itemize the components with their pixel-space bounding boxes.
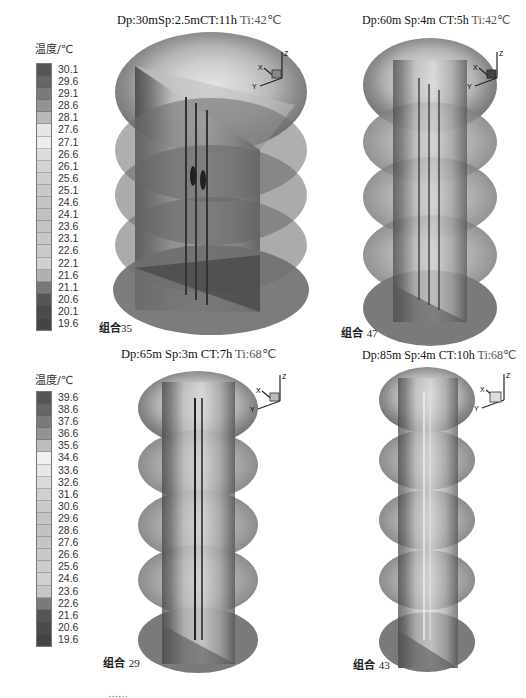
simulation-3d-plot-43 <box>0 0 526 698</box>
svg-text:Y: Y <box>474 405 479 412</box>
axis-triad-icon: Z X Y <box>472 372 512 412</box>
svg-text:Z: Z <box>506 372 511 379</box>
svg-text:X: X <box>480 386 485 393</box>
figure-caption: …… <box>108 688 128 698</box>
